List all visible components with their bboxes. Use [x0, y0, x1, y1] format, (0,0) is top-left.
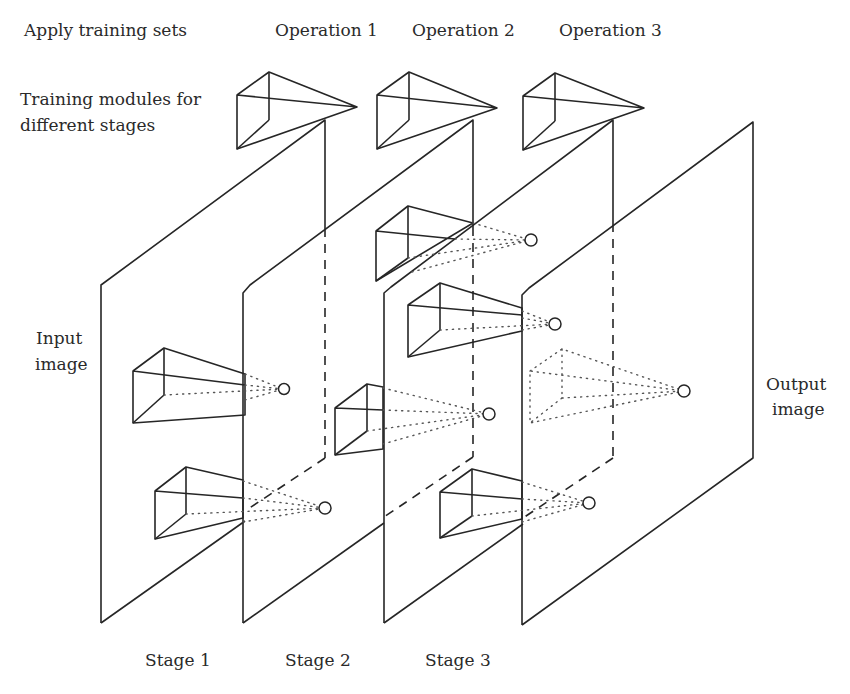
input-image-label-line2: image [35, 354, 88, 374]
output-pixel-node [483, 408, 495, 420]
stage-2-label: Stage 2 [285, 650, 351, 670]
output-pixel-node [678, 385, 690, 397]
output-pixel-node [319, 502, 331, 514]
stage-3-label: Stage 3 [425, 650, 491, 670]
training-modules-label-line2: different stages [20, 115, 155, 135]
stage-1-module-upper [133, 348, 290, 423]
stage-2-module-upper [376, 206, 537, 281]
training-module-operation-1 [237, 72, 357, 149]
output-image-label-line1: Output [766, 374, 827, 394]
operation-1-label: Operation 1 [275, 20, 378, 40]
output-ghost-module [530, 349, 690, 423]
stage-2-module-lower [335, 384, 495, 455]
apply-training-sets-label: Apply training sets [23, 20, 187, 40]
stage-3-plane [384, 120, 613, 623]
output-image-label-line2: image [772, 399, 825, 419]
output-pixel-node [279, 384, 290, 395]
stage-1-label: Stage 1 [145, 650, 211, 670]
training-module-operation-3 [523, 73, 644, 150]
output-pixel-node [583, 497, 595, 509]
output-pixel-node [549, 318, 561, 330]
input-image-label-line1: Input [36, 328, 82, 348]
training-module-operation-2 [377, 72, 497, 149]
training-modules-label-line1: Training modules for [20, 89, 202, 109]
output-pixel-node [525, 234, 537, 246]
operation-2-label: Operation 2 [412, 20, 515, 40]
stage-3-module-upper [408, 283, 561, 357]
stage-2-plane [243, 120, 473, 623]
training-pipeline-diagram: Apply training sets Operation 1 Operatio… [0, 0, 850, 694]
output-image-plane [522, 122, 753, 625]
operation-3-label: Operation 3 [559, 20, 662, 40]
